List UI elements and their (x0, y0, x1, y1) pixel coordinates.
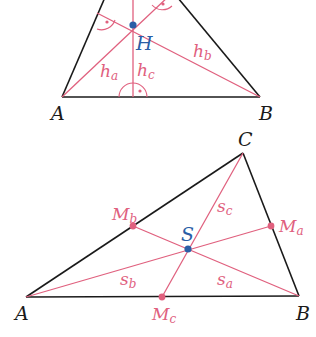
right-angle-dot-c (138, 89, 141, 92)
figure-altitudes: H ha hb hc A B (49, 0, 273, 124)
midpoint-label-ma: Ma (278, 216, 304, 238)
figure-medians: S Ma Mb Mc sa sb sc A B C (13, 128, 310, 326)
centroid-point (184, 245, 191, 252)
midpoint-label-mc: Mc (151, 304, 176, 326)
altitude-hb (97, 13, 260, 97)
orthocenter-point (129, 21, 136, 28)
altitude-label-hc: hc (137, 60, 155, 82)
right-angle-dot-a (161, 2, 164, 5)
median-sc-line (162, 153, 243, 297)
vertex-label-b2: B (295, 302, 310, 324)
median-sb-line (26, 226, 271, 297)
midpoint-label-mb: Mb (111, 204, 137, 226)
altitude-label-ha: ha (100, 61, 118, 83)
vertex-label-a2: A (13, 302, 29, 324)
diagram-canvas: H ha hb hc A B S Ma Mb Mc sa sb sc A B C (0, 0, 316, 337)
right-angle-dot-b (105, 20, 108, 23)
median-label-sb: sb (120, 269, 136, 291)
median-label-sa: sa (217, 269, 233, 291)
orthocenter-label: H (135, 32, 153, 54)
vertex-label-c2: C (238, 128, 253, 150)
side-bc (178, 0, 260, 97)
median-sa-line (133, 226, 299, 296)
midpoint-ma (268, 223, 275, 230)
vertex-label-b: B (258, 102, 273, 124)
midpoint-mc (159, 294, 166, 301)
vertex-label-a: A (49, 102, 65, 124)
median-label-sc: sc (217, 196, 233, 218)
centroid-label: S (181, 223, 194, 245)
altitude-label-hb: hb (193, 41, 212, 63)
